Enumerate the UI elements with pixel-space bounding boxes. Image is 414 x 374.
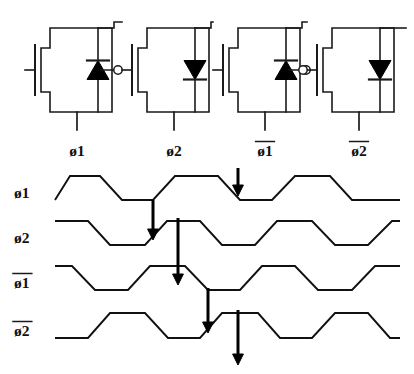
figure-canvas: ø1ø2ø1ø2ø1ø2ø1ø2 (0, 0, 414, 374)
delay-arrow-2 (148, 200, 159, 240)
arrow-head (233, 354, 244, 365)
timing-diagram (55, 176, 400, 338)
inverting-bubble-icon (114, 66, 122, 74)
arrow-head (148, 229, 159, 240)
inverter-stage-4[interactable] (299, 28, 406, 130)
interstage-top-rail (98, 22, 122, 28)
waveform-label-3: ø2 (14, 322, 30, 339)
label-group: ø1ø2ø1ø2ø1ø2ø1ø2 (13, 142, 368, 340)
circuit-stage-label-4: ø2 (351, 142, 367, 159)
inverting-bubble-icon (299, 66, 307, 74)
arrow-head (203, 322, 214, 333)
circuit-stage-label-3: ø1 (257, 142, 273, 159)
waveform-label-0: ø1 (14, 184, 30, 201)
circuit-schematic (25, 22, 406, 130)
clock-driver-figure: ø1ø2ø1ø2ø1ø2ø1ø2 (0, 0, 414, 374)
circuit-stage-label-2: ø2 (166, 142, 182, 159)
waveform-label-1: ø2 (14, 229, 30, 246)
inverter-stage-3[interactable] (213, 22, 310, 130)
diode-down-icon (369, 61, 391, 80)
waveform-row-3 (55, 313, 400, 338)
delay-arrow-3 (173, 218, 184, 285)
delay-arrow-1 (233, 168, 244, 196)
circuit-stage-label-1: ø1 (69, 142, 85, 159)
diode-down-icon (184, 61, 206, 80)
delay-arrow-5 (233, 310, 244, 365)
inverter-stage-1[interactable] (25, 22, 122, 130)
inverter-stage-2[interactable] (122, 22, 213, 130)
delay-arrow-4 (203, 288, 214, 333)
arrow-head (173, 274, 184, 285)
waveform-label-2: ø1 (14, 274, 30, 291)
waveform-row-0 (55, 176, 400, 200)
waveform-row-2 (55, 266, 400, 290)
waveform-row-1 (55, 221, 400, 245)
interstage-top-rail (195, 22, 213, 28)
interstage-top-rail (286, 22, 307, 28)
